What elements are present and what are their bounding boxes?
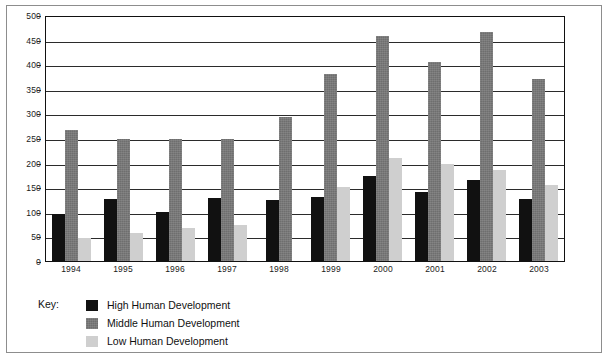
legend-swatch-high-icon [86,300,98,311]
bar-middle-2003 [532,79,545,261]
bar-high-2000 [363,176,376,261]
y-axis-tick-mark [37,139,41,140]
bar-middle-2001 [428,62,441,261]
x-axis-tick-label-1994: 1994 [45,264,97,280]
bar-group-2000 [357,17,409,261]
legend-item-label: High Human Development [107,299,230,311]
legend-swatch-middle-icon [86,318,98,329]
y-axis-tick-mark [37,65,41,66]
bar-low-2002 [493,170,506,261]
bar-groups [46,17,564,261]
y-axis-tick-label: 400 [3,60,41,70]
bar-middle-2000 [376,36,389,261]
y-axis-tick-mark [37,164,41,165]
bar-group-2003 [512,17,564,261]
bar-group-2001 [409,17,461,261]
chart-figure: 500450400350300250200150100500 199419951… [0,0,608,359]
bar-middle-1995 [117,139,130,262]
bar-middle-1996 [169,139,182,262]
x-axis-tick-label-2000: 2000 [357,264,409,280]
bar-low-2003 [545,185,558,261]
bar-group-1997 [201,17,253,261]
x-axis-tick-label-1998: 1998 [253,264,305,280]
bar-low-2001 [441,164,454,261]
bar-group-2002 [460,17,512,261]
bar-low-2000 [389,158,402,261]
plot-area [45,16,565,262]
y-axis-tick-label: 100 [3,208,41,218]
bar-high-1996 [156,212,169,261]
bar-low-1994 [78,238,91,261]
x-axis-tick-label-1999: 1999 [305,264,357,280]
y-axis-tick-label: 50 [3,232,41,242]
y-axis-tick-mark [37,237,41,238]
x-axis-tick-label-2001: 2001 [409,264,461,280]
legend-item-low: Low Human Development [86,332,239,350]
bar-group-1995 [98,17,150,261]
bar-high-2001 [415,192,428,261]
y-axis: 500450400350300250200150100500 [0,16,41,262]
y-axis-tick-mark [37,188,41,189]
y-axis-tick-mark [37,90,41,91]
y-axis-tick-label: 300 [3,109,41,119]
x-axis-tick-label-2003: 2003 [513,264,565,280]
legend-item-middle: Middle Human Development [86,314,239,332]
y-axis-tick-label: 250 [3,134,41,144]
y-axis-tick-mark [37,114,41,115]
legend-item-high: High Human Development [86,296,239,314]
y-axis-tick-label: 0 [3,257,41,267]
y-axis-tick-label: 450 [3,36,41,46]
bar-high-2002 [467,180,480,261]
bar-low-1997 [234,225,247,261]
bar-group-1999 [305,17,357,261]
y-axis-tick-label: 500 [3,11,41,21]
bar-group-1998 [253,17,305,261]
y-axis-tick-mark [37,213,41,214]
bar-high-1997 [208,198,221,261]
bar-middle-1997 [221,139,234,261]
x-axis-tick-label-1997: 1997 [201,264,253,280]
bar-low-1995 [130,233,143,261]
bar-middle-1994 [65,130,78,261]
legend-title: Key: [38,298,59,310]
legend-item-label: Middle Human Development [107,317,239,329]
bar-middle-1998 [279,117,292,261]
bar-low-1999 [337,187,350,261]
bar-high-1995 [104,199,117,261]
x-axis: 1994199519961997199819992000200120022003 [45,264,565,280]
bar-high-1994 [52,214,65,261]
bar-middle-2002 [480,32,493,261]
bar-group-1994 [46,17,98,261]
y-axis-tick-label: 150 [3,183,41,193]
y-axis-tick-mark [37,262,41,263]
y-axis-tick-mark [37,41,41,42]
legend-swatch-low-icon [86,336,98,347]
bar-middle-1999 [324,74,337,261]
legend-items: High Human DevelopmentMiddle Human Devel… [86,296,239,350]
plot-wrapper [45,16,565,262]
y-axis-tick-mark [37,16,41,17]
x-axis-tick-label-1995: 1995 [97,264,149,280]
y-axis-tick-label: 350 [3,85,41,95]
bar-high-1998 [266,200,279,262]
bar-high-2003 [519,199,532,261]
legend-item-label: Low Human Development [107,335,228,347]
x-axis-tick-label-1996: 1996 [149,264,201,280]
x-axis-tick-label-2002: 2002 [461,264,513,280]
bar-high-1999 [311,197,324,261]
bar-group-1996 [150,17,202,261]
y-axis-tick-label: 200 [3,159,41,169]
bar-low-1996 [182,228,195,261]
